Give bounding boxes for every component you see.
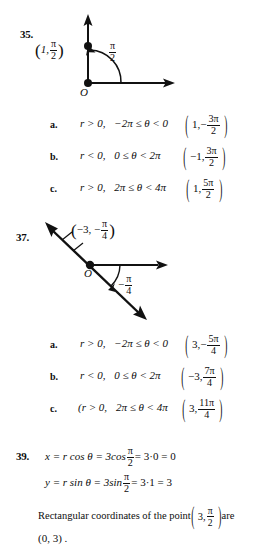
line2-right-side: = 3·1 = 3 (131, 476, 172, 488)
choice-answer-35-a: ( 1,−3π2 ) (185, 113, 228, 136)
answer-radius: −3, (188, 370, 202, 382)
point-label-open-paren: ( (35, 41, 41, 60)
answer-radius: 3, (189, 402, 197, 414)
fraction-numerator: π (123, 472, 130, 483)
fraction-numerator: π (50, 39, 57, 50)
condition-range: 2π ≤ θ < 4π (116, 401, 168, 413)
answer-paren-group: ( 3,−5π4 ) (185, 333, 228, 356)
fraction-numerator: 3π (205, 146, 217, 157)
choice-letter-35-c[interactable]: c. (50, 183, 57, 194)
left-paren: ( (185, 332, 188, 357)
condition-r: (r > 0, (78, 401, 107, 413)
vertical-axis-arrowhead (81, 14, 95, 28)
fraction-denominator: 2 (207, 126, 219, 137)
angle-label-37: −π4 (118, 273, 133, 296)
condition-range: 0 ≤ θ < 2π (114, 369, 160, 381)
fraction-denominator: 2 (127, 458, 134, 469)
line1-fraction: π2 (127, 446, 134, 469)
line3-suffix: are (222, 510, 235, 521)
left-paren: ( (182, 396, 185, 421)
point-label-radius: 1, (41, 43, 49, 55)
right-paren: ) (220, 364, 223, 389)
point-fraction: π2 (207, 506, 214, 528)
answer-paren-group: ( 1,5π2 ) (186, 177, 222, 200)
solutions-page: 35. (1,π2) π2 O (0, 0, 268, 558)
fraction-denominator: 4 (125, 286, 132, 297)
fraction-denominator: 4 (207, 346, 219, 357)
left-paren: ( (185, 112, 188, 137)
point-label-close-paren: ) (109, 221, 115, 240)
choice-answer-35-b: ( −1,3π2 ) (183, 145, 226, 168)
fraction-denominator: 2 (207, 518, 214, 528)
answer-paren-group: ( 1,−3π2 ) (185, 113, 228, 136)
choice-answer-37-a: ( 3,−5π4 ) (185, 333, 228, 356)
answer-fraction: 5π2 (202, 178, 214, 201)
fraction-numerator: 5π (202, 178, 214, 189)
choice-letter-37-b[interactable]: b. (50, 371, 58, 382)
answer-fraction: 11π4 (198, 398, 215, 421)
condition-r: r < 0, (80, 149, 105, 161)
right-paren: ) (219, 176, 222, 201)
angle-fraction: π4 (125, 274, 132, 297)
answer-fraction: 3π2 (207, 114, 219, 137)
condition-range: −2π ≤ θ < 0 (114, 337, 168, 349)
left-paren: ( (191, 504, 194, 529)
choice-answer-37-c: ( 3,11π4 ) (182, 397, 223, 420)
line1-right-side: = 3·0 = 0 (135, 450, 176, 462)
right-paren: ) (224, 332, 227, 357)
line3-point-group: ( 3,π2 ) (191, 505, 222, 527)
choice-letter-35-b[interactable]: b. (50, 151, 58, 162)
origin-label: O (80, 87, 88, 98)
polar-point-figure-37: (−3, −π4) −π4 O (40, 218, 180, 318)
answer-sign: − (200, 338, 206, 350)
right-paren: ) (224, 112, 227, 137)
answer-radius: −1, (190, 150, 204, 162)
left-paren: ( (183, 144, 186, 169)
line3-prefix: Rectangular coordinates of the point (38, 510, 191, 521)
problem-number-37: 37. (16, 231, 29, 243)
condition-range: 0 ≤ θ < 2π (114, 149, 160, 161)
choice-letter-35-a[interactable]: a. (50, 119, 58, 130)
point-label-angle-fraction: π2 (50, 39, 57, 62)
left-paren: ( (186, 176, 189, 201)
point-label-angle-fraction: π4 (101, 219, 108, 242)
problem-number-39: 39. (16, 450, 29, 462)
choice-letter-37-a[interactable]: a. (50, 339, 58, 350)
fraction-denominator: 2 (123, 484, 130, 495)
problem39-line4: (0, 3) . (38, 533, 67, 544)
fraction-numerator: π (127, 446, 134, 457)
fraction-denominator: 2 (109, 53, 116, 64)
line2-left-side: y = r sin θ = 3sin (45, 476, 122, 488)
problem39-line2: y = r sin θ = 3sinπ2= 3·1 = 3 (45, 471, 172, 494)
answer-radius: 1, (193, 182, 201, 194)
choice-answer-37-b: ( −3,7π4 ) (181, 365, 224, 388)
fraction-denominator: 2 (202, 190, 214, 201)
angle-label-35: π2 (108, 40, 117, 63)
answer-radius: 3, (192, 338, 200, 350)
problem39-line1: x = r cos θ = 3cosπ2= 3·0 = 0 (45, 445, 176, 468)
fraction-numerator: 7π (203, 366, 215, 377)
point-label-35: (1,π2) (35, 38, 64, 61)
right-paren: ) (218, 504, 221, 529)
condition-range: −2π ≤ θ < 0 (114, 117, 168, 129)
fraction-numerator: π (125, 274, 132, 285)
choice-condition-35-a: r > 0, −2π ≤ θ < 0 (80, 118, 168, 129)
choice-condition-37-b: r < 0, 0 ≤ θ < 2π (80, 370, 161, 381)
choice-condition-35-c: r > 0, 2π ≤ θ < 4π (80, 182, 166, 193)
point-label-37: (−3, −π4) (71, 218, 115, 241)
answer-sign: − (200, 118, 206, 130)
answer-paren-group: ( −3,7π4 ) (181, 365, 224, 388)
choice-condition-35-b: r < 0, 0 ≤ θ < 2π (80, 150, 161, 161)
choice-condition-37-c: (r > 0, 2π ≤ θ < 4π (78, 402, 168, 413)
fraction-denominator: 2 (50, 51, 57, 62)
choice-letter-37-c[interactable]: c. (50, 403, 57, 414)
point-label-radius: −3, − (77, 223, 100, 235)
angle-sign: − (118, 278, 124, 290)
left-paren: ( (181, 364, 184, 389)
answer-fraction: 5π4 (207, 334, 219, 357)
line1-left-side: x = r cos θ = 3cos (45, 450, 126, 462)
answer-paren-group: ( −1,3π2 ) (183, 145, 226, 168)
point-radius: 3, (198, 511, 206, 522)
right-paren: ) (220, 396, 223, 421)
condition-r: r > 0, (80, 181, 105, 193)
